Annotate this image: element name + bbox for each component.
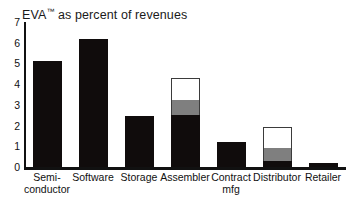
x-axis-tick-label-line: Retailer — [294, 171, 350, 183]
bar-segment-white — [263, 127, 292, 149]
y-axis-tick-label: 4 — [4, 79, 20, 89]
chart-title-rest: as percent of revenues — [54, 8, 187, 22]
bar-storage[interactable] — [125, 116, 154, 167]
bar-semi-conductor[interactable] — [33, 61, 62, 167]
y-axis-tick-labels: 76543210 — [0, 22, 20, 169]
bar-assembler[interactable] — [171, 78, 200, 167]
bar-segment-gray — [263, 148, 292, 160]
x-axis-line — [24, 167, 346, 170]
bar-segment-black — [217, 142, 246, 167]
bar-software[interactable] — [79, 39, 108, 167]
y-axis-tick-label: 3 — [4, 100, 20, 110]
y-axis-tick-label: 7 — [4, 17, 20, 27]
y-axis-tick-label: 2 — [4, 121, 20, 131]
bar-segment-black — [125, 116, 154, 167]
bar-distributor[interactable] — [263, 127, 292, 167]
y-axis-tick-label: 5 — [4, 58, 20, 68]
bar-segment-black — [309, 163, 338, 167]
y-axis-tick-label: 6 — [4, 38, 20, 48]
x-axis-tick-label-line — [294, 183, 350, 195]
bar-segment-black — [33, 61, 62, 167]
bars-layer — [24, 22, 346, 167]
bar-retailer[interactable] — [309, 163, 338, 167]
chart-container: EVA™ as percent of revenues 76543210 Sem… — [0, 0, 350, 204]
chart-title-main: EVA — [22, 8, 46, 22]
x-axis-tick-label: Retailer — [294, 171, 350, 195]
y-axis-tick-label: 1 — [4, 141, 20, 151]
bar-segment-black — [171, 115, 200, 167]
bar-segment-black — [263, 161, 292, 167]
bar-segment-black — [79, 39, 108, 167]
chart-title: EVA™ as percent of revenues — [22, 4, 187, 23]
bar-contract-mfg[interactable] — [217, 142, 246, 167]
bar-segment-gray — [171, 100, 200, 116]
x-axis-tick-labels: Semi-conductorSoftware Storage Assembler… — [24, 171, 346, 204]
bar-segment-white — [171, 78, 200, 100]
